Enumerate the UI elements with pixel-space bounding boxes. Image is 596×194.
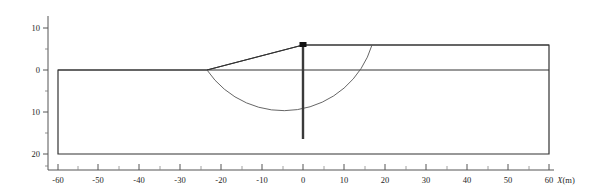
x-axis-tick-label: -30 (174, 175, 185, 185)
y-axis-tick-label: 20 (32, 149, 41, 159)
plot-background (0, 0, 596, 194)
y-axis-tick-label: 10 (32, 107, 41, 117)
x-axis-title-unit: (m) (562, 175, 574, 185)
x-axis-tick-label: 50 (504, 175, 513, 185)
x-axis-title: X(m) (556, 175, 575, 185)
x-axis-tick-label: -10 (256, 175, 267, 185)
pile-head-cap-marker (300, 42, 307, 47)
y-axis-tick-label: 10 (32, 23, 41, 33)
slope-stability-figure: 10 0 10 20 (0, 0, 596, 194)
x-axis-tick-label: 0 (301, 175, 305, 185)
x-axis-tick-label: 30 (422, 175, 431, 185)
y-axis-tick-label: 0 (36, 65, 40, 75)
x-axis-tick-label: 60 (545, 175, 554, 185)
x-axis-tick-label: 40 (463, 175, 472, 185)
x-axis-tick-label: -50 (92, 175, 103, 185)
x-axis-tick-label: 10 (340, 175, 349, 185)
x-axis-tick-label: 20 (381, 175, 390, 185)
x-axis-tick-label: -60 (52, 175, 63, 185)
plot-canvas: 10 0 10 20 (0, 0, 596, 194)
x-axis-tick-label: -40 (133, 175, 144, 185)
x-axis-tick-label: -20 (215, 175, 226, 185)
